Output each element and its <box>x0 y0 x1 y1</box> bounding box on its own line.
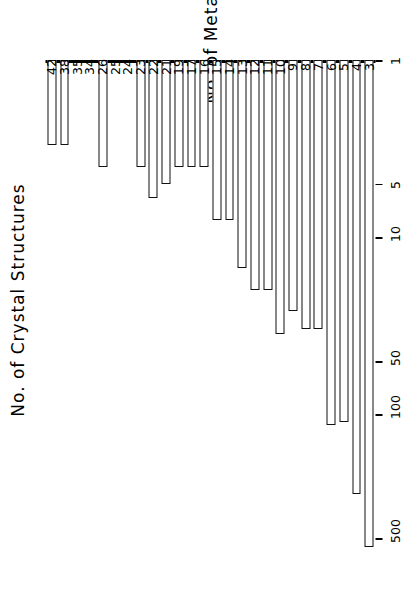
bar <box>161 60 170 184</box>
value-tick-label: 50 <box>387 350 402 366</box>
value-tick-label: 500 <box>387 519 402 543</box>
bar <box>187 60 196 167</box>
value-tick <box>375 237 382 239</box>
bar <box>199 60 208 167</box>
bar <box>275 60 284 334</box>
value-tick <box>375 414 382 416</box>
bar <box>339 60 348 422</box>
bar <box>263 60 272 290</box>
bar <box>250 60 259 290</box>
value-tick <box>375 361 382 363</box>
bar <box>212 60 221 220</box>
bar <box>136 60 145 167</box>
value-tick-label: 10 <box>387 226 402 242</box>
bar <box>326 60 335 425</box>
bar <box>352 60 361 494</box>
bar <box>148 60 157 198</box>
bar <box>288 60 297 311</box>
bar <box>237 60 246 268</box>
value-tick-label: 100 <box>387 395 402 419</box>
value-tick-label: 1 <box>387 57 402 65</box>
bar <box>364 60 373 547</box>
bar <box>98 60 107 167</box>
bar <box>225 60 234 220</box>
bar <box>301 60 310 329</box>
rotated-plot-group: No. of Crystal Structures No. of Metal A… <box>0 0 405 604</box>
plot-area: 151050100500 345678910111213141516171921… <box>45 60 375 564</box>
value-tick <box>375 184 382 186</box>
y-axis-title: No. of Crystal Structures <box>7 183 27 416</box>
bar <box>313 60 322 329</box>
value-tick-label: 5 <box>387 181 402 189</box>
bar-series <box>45 60 375 564</box>
category-label: 42 <box>43 59 59 75</box>
value-tick <box>375 538 382 540</box>
chart-canvas: No. of Crystal Structures No. of Metal A… <box>0 0 405 604</box>
bar <box>174 60 183 167</box>
